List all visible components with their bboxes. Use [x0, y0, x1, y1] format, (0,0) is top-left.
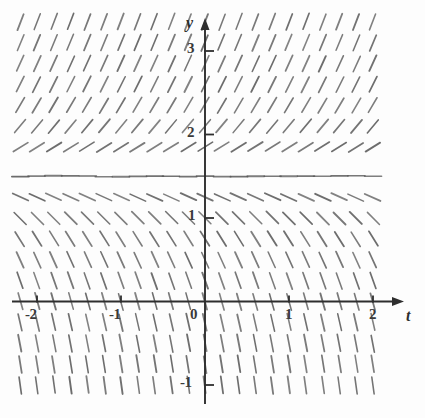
slope-segment: [34, 35, 41, 51]
slope-segment: [367, 120, 378, 133]
slope-segment: [287, 335, 290, 352]
slope-segment: [101, 14, 107, 30]
slope-segment: [17, 55, 24, 70]
slope-segment: [100, 98, 109, 113]
slope-segment: [371, 335, 374, 352]
slope-segment: [67, 77, 75, 92]
slope-segment: [68, 314, 72, 331]
slope-segment: [29, 194, 44, 201]
slope-segment: [18, 314, 22, 331]
slope-segment: [369, 14, 375, 30]
slope-segment: [32, 212, 44, 224]
slope-segment: [355, 355, 358, 372]
slope-segment: [36, 356, 39, 373]
slope-segment: [365, 194, 381, 201]
slope-segment: [119, 335, 122, 352]
slope-segment: [166, 120, 177, 133]
slope-segment: [304, 314, 308, 331]
slope-segment: [336, 56, 343, 71]
slope-segment: [66, 232, 75, 246]
slope-segment: [354, 273, 360, 289]
slope-segment: [286, 77, 294, 92]
slope-segment: [337, 334, 340, 351]
slope-segment: [150, 98, 159, 113]
slope-segment: [18, 335, 21, 352]
slope-segment: [97, 143, 111, 152]
slope-segment: [318, 98, 327, 113]
slope-segment: [251, 232, 260, 246]
slope-segment: [334, 120, 345, 133]
slope-segment: [134, 35, 141, 51]
slope-segment: [269, 13, 275, 29]
slope-segment: [69, 377, 71, 394]
slope-segment: [371, 355, 374, 372]
slope-segment: [352, 77, 360, 92]
slope-segment: [100, 231, 109, 245]
slope-segment: [67, 34, 74, 50]
slope-segment: [353, 14, 359, 30]
slope-segment: [372, 377, 374, 394]
slope-segment: [335, 232, 344, 246]
slope-segment: [348, 194, 364, 201]
y-tick-label-3: 3: [187, 40, 194, 57]
slope-segment: [318, 232, 327, 246]
slope-segment: [235, 55, 242, 70]
slope-segment: [64, 143, 78, 152]
x-axis-arrowhead: [392, 297, 404, 306]
slope-segment: [151, 35, 158, 51]
slope-segment: [250, 212, 262, 224]
slope-segment: [284, 231, 293, 245]
slope-segment: [214, 142, 228, 151]
slope-segment: [252, 252, 259, 267]
slope-segment: [181, 143, 195, 152]
slope-segment: [319, 252, 326, 267]
slope-segment: [250, 119, 261, 132]
slope-segment: [266, 142, 280, 151]
slope-segment: [281, 194, 297, 201]
slope-segment: [319, 77, 327, 92]
slope-segment: [248, 194, 263, 201]
slope-segment: [168, 35, 175, 51]
x-tick-label-minus-2: -2: [25, 306, 37, 323]
y-tick-label-1: 1: [188, 207, 195, 224]
slope-segment: [268, 98, 277, 113]
slope-segment: [16, 76, 24, 91]
slope-segment: [17, 14, 23, 30]
slope-segment: [153, 314, 157, 331]
slope-segment: [169, 273, 175, 289]
slope-segment: [13, 143, 27, 152]
slope-segment: [114, 143, 128, 152]
slope-segment: [331, 193, 347, 200]
slope-segment: [101, 35, 108, 51]
slope-segment: [46, 193, 62, 200]
slope-segment: [169, 13, 175, 29]
slope-segment: [80, 142, 94, 151]
slope-segment: [133, 232, 142, 246]
slope-segment: [86, 335, 89, 352]
slope-segment: [286, 14, 292, 30]
slope-segment: [100, 77, 108, 92]
slope-segment: [168, 77, 176, 92]
slope-segment: [147, 143, 161, 152]
slope-segment: [135, 272, 141, 288]
slope-segment: [237, 335, 240, 352]
slope-segment: [187, 334, 190, 351]
slope-segment: [104, 377, 106, 394]
slope-segment: [321, 314, 325, 331]
slope-segment: [366, 143, 380, 152]
slope-segment: [65, 120, 76, 133]
slope-segment: [86, 314, 90, 331]
slope-segment: [354, 335, 357, 352]
slope-segment: [70, 356, 73, 373]
slope-segment: [17, 35, 24, 51]
y-axis-label: y: [186, 14, 193, 32]
slope-segment: [120, 356, 123, 373]
slope-segment: [301, 77, 309, 92]
slope-segment: [86, 376, 88, 393]
slope-segment: [50, 252, 57, 267]
slope-segment: [33, 77, 41, 92]
slope-segment: [320, 273, 326, 289]
slope-segment: [252, 35, 259, 51]
slope-segment: [283, 212, 295, 224]
slope-segment: [167, 232, 176, 246]
